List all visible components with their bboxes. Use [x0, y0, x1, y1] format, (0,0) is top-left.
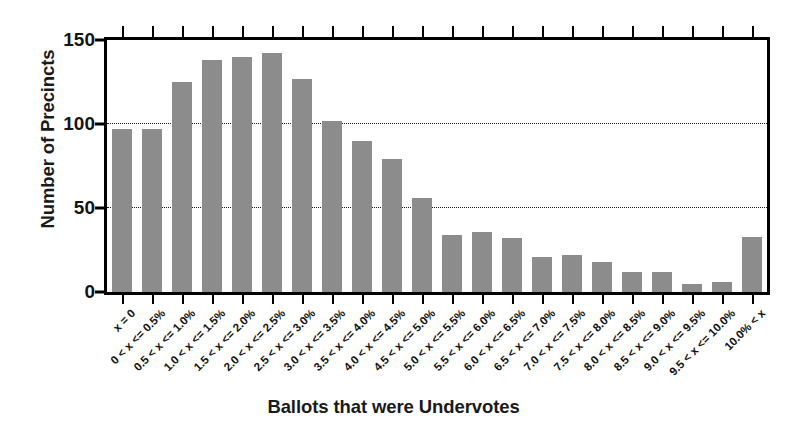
x-tick-mark: [122, 295, 124, 304]
x-tick-mark: [512, 295, 514, 304]
bar: [592, 262, 611, 292]
x-tick-mark: [302, 295, 304, 304]
top-tick-mark: [242, 26, 244, 37]
bar-series: [107, 40, 767, 292]
x-tick-mark: [572, 295, 574, 304]
top-tick-mark: [212, 26, 214, 37]
top-tick-mark: [602, 26, 604, 37]
top-tick-mark: [482, 26, 484, 37]
x-axis-title: Ballots that were Undervotes: [0, 396, 787, 418]
top-tick-mark: [572, 26, 574, 37]
top-tick-mark: [422, 26, 424, 37]
bar: [202, 60, 221, 292]
y-tick-label: 100: [25, 113, 95, 135]
bar: [172, 82, 191, 292]
top-tick-mark: [362, 26, 364, 37]
x-tick-mark: [482, 295, 484, 304]
x-tick-mark: [452, 295, 454, 304]
bar: [352, 141, 371, 292]
bar: [292, 79, 311, 292]
x-tick-mark: [752, 295, 754, 304]
plot-area: [104, 37, 770, 295]
x-tick-mark: [542, 295, 544, 304]
top-tick-mark: [392, 26, 394, 37]
bar: [622, 272, 641, 292]
bar: [262, 53, 281, 292]
x-tick-mark: [272, 295, 274, 304]
x-tick-mark: [722, 295, 724, 304]
x-tick-mark: [332, 295, 334, 304]
x-tick-mark: [422, 295, 424, 304]
top-tick-mark: [122, 26, 124, 37]
bar: [232, 57, 251, 292]
top-tick-mark: [452, 26, 454, 37]
bar: [652, 272, 671, 292]
x-tick-mark: [242, 295, 244, 304]
bar: [712, 282, 731, 292]
top-tick-mark: [332, 26, 334, 37]
bar: [412, 198, 431, 292]
top-tick-mark: [542, 26, 544, 37]
top-tick-mark: [272, 26, 274, 37]
bar: [562, 255, 581, 292]
x-tick-mark: [212, 295, 214, 304]
histogram-figure: Number of Precincts 050100150 x = 00 < x…: [0, 0, 787, 431]
top-tick-mark: [662, 26, 664, 37]
bar: [472, 232, 491, 292]
top-tick-mark: [632, 26, 634, 37]
y-tick-label: 50: [25, 197, 95, 219]
bar: [442, 235, 461, 292]
x-tick-mark: [392, 295, 394, 304]
bar: [742, 237, 761, 292]
bar: [532, 257, 551, 292]
x-tick-mark: [602, 295, 604, 304]
top-tick-mark: [752, 26, 754, 37]
bar: [142, 129, 161, 292]
top-tick-mark: [512, 26, 514, 37]
x-tick-mark: [362, 295, 364, 304]
top-tick-mark: [302, 26, 304, 37]
x-tick-mark: [632, 295, 634, 304]
x-tick-mark: [182, 295, 184, 304]
x-tick-mark: [692, 295, 694, 304]
x-tick-mark: [152, 295, 154, 304]
bar: [322, 121, 341, 292]
plot-inner: [107, 40, 767, 292]
bar: [502, 238, 521, 292]
y-tick-label: 150: [25, 29, 95, 51]
top-tick-mark: [722, 26, 724, 37]
bar: [682, 284, 701, 292]
bar: [112, 129, 131, 292]
top-tick-mark: [182, 26, 184, 37]
top-tick-mark: [152, 26, 154, 37]
bar: [382, 159, 401, 292]
y-tick-label: 0: [25, 281, 95, 303]
top-tick-mark: [692, 26, 694, 37]
x-tick-mark: [662, 295, 664, 304]
